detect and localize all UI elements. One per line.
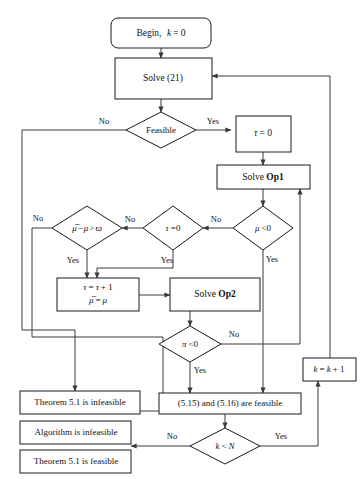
conditions-feasible-label: (5.15) and (5.16) are feasible (178, 398, 282, 408)
label-feasible-no: No (99, 116, 109, 126)
label-mubar-yes: Yes (67, 255, 79, 265)
feasible-label: Feasible (146, 125, 176, 135)
node-pi-neg: π<0 No Yes (159, 326, 239, 375)
tauinc-line2: μ̅=μ (88, 295, 108, 305)
begin-label: Begin, k= 0 (136, 28, 185, 38)
label-muneg-yes: Yes (266, 254, 278, 264)
label-muneg-no: No (211, 214, 221, 224)
label-feasible-yes: Yes (207, 116, 219, 126)
node-conditions-feasible: (5.15) and (5.16) are feasible (159, 393, 301, 414)
label-klessn-yes: Yes (275, 431, 287, 441)
flowchart-canvas: Begin, k= 0 Solve (21) Feasible No Yes τ… (0, 0, 362, 479)
label-mubar-no: No (33, 213, 43, 223)
flowchart-figure: Begin, k= 0 Solve (21) Feasible No Yes τ… (0, 0, 362, 479)
label-taueqzero-yes: Yes (161, 255, 173, 265)
label-pineg-yes: Yes (194, 365, 206, 375)
mubar-label: μ̅−μ>ϖ (71, 223, 102, 233)
muneg-label: μ<0 (254, 223, 272, 233)
node-mubar-diff: μ̅−μ>ϖ No Yes (33, 206, 122, 265)
pineg-label: π<0 (182, 339, 199, 349)
node-tau-zero-assign: τ= 0 (236, 116, 291, 152)
node-tau-increment: τ=τ+ 1 μ̅=μ (57, 278, 139, 311)
tauzero-label: τ= 0 (254, 128, 272, 138)
taueqzero-label: τ=0 (166, 223, 181, 233)
node-theorem-infeasible: Theorem 5.1 is infeasible (20, 391, 140, 414)
edge-mubar-no (32, 228, 163, 411)
node-solve-op1: Solve Op1 (217, 165, 310, 189)
node-solve21: Solve (21) (115, 58, 212, 99)
theorem-infeasible-label: Theorem 5.1 is infeasible (34, 397, 125, 407)
theorem-feasible-label: Theorem 5.1 is feasible (34, 456, 118, 466)
node-k-increment: k=k+ 1 (303, 358, 356, 381)
label-taueqzero-no: No (125, 214, 135, 224)
node-theorem-feasible: Theorem 5.1 is feasible (20, 450, 131, 473)
solve21-label: Solve (21) (143, 73, 183, 84)
label-pineg-no: No (229, 329, 239, 339)
node-begin: Begin, k= 0 (111, 18, 211, 48)
op2-label: Solve Op2 (194, 289, 236, 299)
klessn-label: k<N (215, 441, 235, 451)
node-mu-neg: μ<0 No Yes (211, 206, 293, 264)
node-solve-op2: Solve Op2 (170, 278, 260, 311)
op1-label: Solve Op1 (242, 172, 284, 182)
node-tau-eq-zero: τ=0 No Yes (125, 206, 203, 265)
node-algorithm-infeasible: Algorithm is infeasible (20, 421, 131, 444)
tauinc-line1: τ=τ+ 1 (83, 282, 112, 292)
label-klessn-no: No (167, 431, 177, 441)
algorithm-infeasible-label: Algorithm is infeasible (35, 427, 118, 437)
